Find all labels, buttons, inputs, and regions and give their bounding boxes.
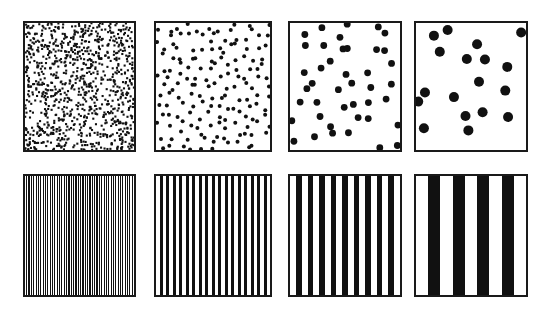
texture-dot — [186, 138, 190, 142]
texture-dot — [109, 79, 111, 81]
texture-dot — [29, 61, 31, 63]
texture-dot — [193, 77, 197, 81]
texture-stripe — [82, 176, 83, 295]
texture-dot — [309, 80, 316, 87]
texture-dot — [81, 68, 83, 70]
texture-dot — [255, 93, 259, 97]
texture-dot — [112, 76, 114, 78]
texture-panel-stripes-fine — [23, 174, 136, 297]
texture-stripe — [26, 176, 27, 295]
texture-stripe — [120, 176, 121, 295]
texture-dot — [80, 28, 82, 30]
texture-dot — [90, 143, 92, 145]
texture-stripe — [192, 176, 195, 295]
texture-dot — [42, 40, 44, 42]
texture-dot — [245, 98, 249, 102]
texture-dot — [99, 23, 101, 24]
texture-dot — [58, 126, 60, 128]
texture-dot — [429, 31, 439, 41]
texture-dot — [199, 147, 203, 150]
texture-dot — [32, 140, 34, 142]
texture-stripe — [331, 176, 337, 295]
texture-dot — [132, 98, 134, 100]
texture-dot — [97, 73, 99, 75]
texture-dot — [114, 139, 116, 141]
texture-dot — [61, 137, 63, 139]
texture-dot — [33, 38, 35, 40]
texture-dot — [167, 144, 171, 148]
texture-dot — [50, 34, 52, 36]
texture-dot — [42, 141, 44, 143]
texture-dot — [79, 104, 81, 106]
texture-dot — [210, 97, 214, 101]
texture-dot — [59, 119, 61, 121]
texture-dot — [75, 104, 77, 106]
texture-dot — [64, 97, 66, 99]
texture-dot — [26, 56, 28, 58]
texture-dot — [34, 147, 36, 149]
texture-dot — [53, 120, 55, 122]
texture-dot — [101, 103, 103, 105]
texture-dot — [175, 46, 179, 50]
texture-dot — [62, 23, 64, 25]
texture-dot — [76, 77, 78, 79]
texture-dot — [78, 88, 80, 90]
texture-dot — [85, 120, 87, 122]
texture-dot — [26, 69, 28, 71]
texture-dot — [156, 40, 159, 44]
texture-dot — [38, 72, 40, 74]
texture-dot — [45, 28, 47, 30]
texture-dot — [209, 67, 213, 71]
texture-dot — [117, 120, 119, 122]
texture-dot — [33, 53, 35, 55]
texture-dot — [41, 92, 43, 94]
texture-dot — [74, 59, 76, 61]
texture-dot — [203, 136, 207, 140]
texture-dot — [98, 26, 100, 28]
texture-dot — [52, 74, 54, 76]
texture-dot — [59, 133, 61, 135]
texture-dot — [32, 42, 34, 44]
texture-dot — [81, 144, 83, 146]
texture-stripe — [47, 176, 48, 295]
texture-dot — [33, 60, 35, 62]
texture-panel-dots-small — [154, 21, 272, 152]
texture-dot — [376, 144, 383, 150]
texture-dot — [36, 95, 38, 97]
texture-dot — [83, 63, 85, 65]
texture-dot — [191, 49, 195, 53]
texture-stripe — [75, 176, 76, 295]
texture-dot — [37, 125, 39, 127]
texture-dot — [109, 39, 111, 41]
texture-stripe — [111, 176, 112, 295]
texture-dot — [344, 45, 351, 52]
texture-dot — [92, 61, 94, 63]
texture-dot — [52, 95, 54, 97]
texture-dot — [101, 29, 103, 31]
texture-dot — [237, 98, 241, 102]
texture-dot — [131, 117, 133, 119]
texture-dot — [26, 50, 28, 52]
texture-dot — [245, 47, 249, 51]
texture-dot — [43, 46, 45, 48]
texture-dot — [91, 149, 93, 150]
texture-dot — [268, 125, 271, 129]
texture-dot — [87, 113, 89, 115]
texture-dot — [101, 125, 103, 127]
texture-dot — [127, 35, 129, 37]
texture-dot — [90, 97, 92, 99]
texture-dot — [64, 92, 66, 94]
texture-dot — [190, 92, 194, 96]
texture-dot — [89, 106, 91, 108]
texture-dot — [28, 77, 30, 79]
texture-dot — [45, 145, 47, 147]
texture-dot — [81, 133, 83, 135]
texture-dot — [100, 147, 102, 149]
texture-dot — [40, 35, 42, 37]
texture-stripe — [52, 176, 53, 295]
texture-dot — [209, 39, 213, 43]
texture-dot — [81, 39, 83, 41]
texture-dot — [210, 47, 214, 51]
texture-dot — [37, 83, 39, 85]
texture-dot — [170, 137, 174, 141]
